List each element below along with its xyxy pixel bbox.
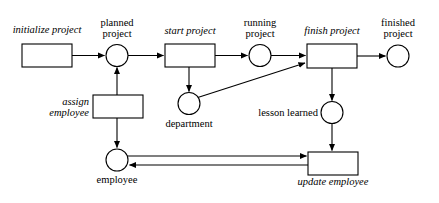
label-planned-project-line2: project [92, 28, 142, 40]
label-lesson-learned: lesson learned [242, 107, 318, 119]
label-assign-employee-line2: employee [21, 107, 89, 119]
label-running-project-line2: project [235, 28, 285, 40]
label-start-project: start project [156, 25, 224, 37]
label-employee: employee [89, 174, 145, 186]
label-assign-employee-line1: assign [31, 96, 89, 108]
arc-department-to-finish [198, 63, 305, 98]
place-lesson-learned[interactable] [321, 102, 343, 124]
place-finished-project[interactable] [387, 45, 409, 67]
place-employee[interactable] [106, 149, 128, 171]
label-finished-project-line2: project [373, 28, 423, 40]
label-update-employee: update employee [287, 176, 379, 188]
label-running-project-line1: running [235, 17, 285, 29]
place-running-project[interactable] [249, 45, 271, 67]
transition-update-employee[interactable] [308, 152, 358, 175]
label-finish-project: finish project [295, 25, 369, 37]
transition-initialize-project[interactable] [22, 44, 72, 67]
transition-start-project[interactable] [165, 44, 215, 67]
label-planned-project-line1: planned [92, 17, 142, 29]
transition-finish-project[interactable] [307, 44, 357, 68]
petri-net-diagram: initialize project planned project start… [0, 0, 439, 203]
transition-assign-employee[interactable] [93, 95, 143, 118]
place-department[interactable] [178, 93, 200, 115]
label-initialize-project: initialize project [7, 24, 87, 36]
label-department: department [159, 118, 219, 130]
place-planned-project[interactable] [106, 45, 128, 67]
label-finished-project-line1: finished [373, 17, 423, 29]
